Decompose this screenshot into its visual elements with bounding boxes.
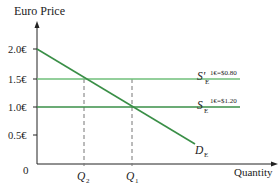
q1-label: Q	[126, 170, 135, 182]
supply-prime-rate: 1€=$0.80	[210, 69, 237, 77]
y-tick-10: 1.0€	[8, 102, 27, 113]
q2-label: Q	[77, 170, 86, 182]
q2-subscript: 2	[86, 177, 90, 185]
y-axis-label: Euro Price	[14, 4, 65, 18]
demand-subscript: E	[204, 151, 208, 159]
demand-line	[37, 49, 195, 144]
q1-subscript: 1	[135, 177, 139, 185]
y-axis-arrow-icon	[35, 21, 40, 28]
supply-label: S	[197, 99, 203, 111]
supply-rate: 1€=$1.20	[210, 97, 237, 105]
y-tick-2: 2.0€	[8, 44, 27, 55]
supply-prime-subscript: E	[205, 78, 209, 86]
x-axis-label: Quantity	[234, 166, 273, 178]
y-tick-05: 0.5€	[8, 130, 27, 141]
exchange-rate-chart: Euro Price Quantity 0 2.0€ 1.5€ 1.0€ 0.5…	[0, 0, 280, 186]
supply-subscript: E	[204, 107, 208, 115]
origin-label: 0	[23, 164, 29, 176]
demand-label: D	[194, 144, 204, 156]
y-tick-15: 1.5€	[8, 74, 27, 85]
